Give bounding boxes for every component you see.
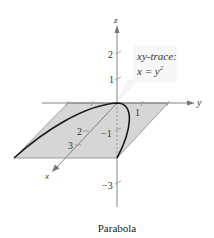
callout-line2: x = y2 [136, 64, 164, 77]
figure-caption: Parabola [0, 222, 214, 234]
callout-equation-lhs: x = y [136, 65, 160, 77]
z-tick-label-1: 1 [109, 74, 114, 85]
y-axis-label: y [196, 97, 202, 108]
z-axis-arrowhead [115, 25, 120, 33]
z-tick [115, 181, 121, 184]
callout-pointer [118, 80, 138, 101]
z-tick-label-neg1: −1 [101, 128, 112, 139]
callout-line1: xy-trace: [136, 50, 177, 62]
y-tick-label-1: 1 [135, 107, 140, 118]
z-axis-label: z [113, 15, 118, 25]
y-axis-arrowhead [187, 101, 195, 106]
x-axis-label: x [44, 171, 49, 181]
z-tick-label-neg3: −3 [102, 180, 113, 191]
z-tick [115, 51, 121, 54]
callout-equation-exponent: 2 [160, 64, 164, 72]
z-tick [115, 77, 121, 80]
x-tick-label-3: 3 [68, 140, 73, 151]
z-tick-label-2: 2 [108, 49, 113, 60]
parabola-trace-diagram: xy-trace: x = y2 z y x 2 1 −1 −3 2 3 1 [0, 0, 214, 238]
x-tick-label-2: 2 [77, 126, 82, 137]
